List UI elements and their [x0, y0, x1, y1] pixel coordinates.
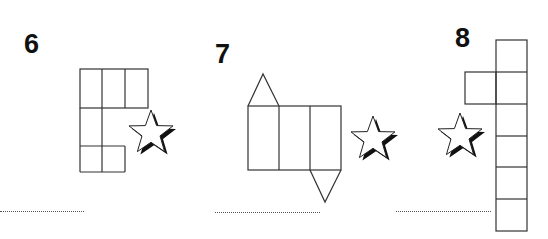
star-icon — [129, 110, 176, 155]
figure-7-net — [248, 74, 341, 202]
figure-6-net — [80, 69, 148, 172]
star-icon — [351, 116, 398, 161]
answer-line-8[interactable] — [396, 211, 491, 212]
answer-line-7[interactable] — [215, 212, 320, 213]
answer-line-6[interactable] — [0, 211, 84, 212]
star-icon — [438, 113, 485, 158]
